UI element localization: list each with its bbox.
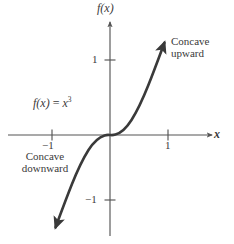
equation-operator: =: [50, 96, 63, 110]
y-tick-label-neg1: −1: [85, 193, 97, 205]
x-tick-label-pos1: 1: [165, 139, 171, 151]
concave-downward-line-2: downward: [9, 162, 81, 174]
concave-downward-annotation: Concave downward: [9, 150, 81, 175]
concave-downward-line-1: Concave: [9, 150, 81, 162]
x-axis-label: x: [214, 128, 220, 141]
equation-label: f(x)=x3: [33, 97, 72, 110]
cubic-concavity-figure: f(x) x −1 1 1 −1 f(x)=x3 Concave upward …: [0, 0, 234, 244]
equation-lhs: f(x): [33, 96, 50, 110]
y-axis-label: f(x): [97, 2, 114, 15]
y-tick-label-pos1: 1: [92, 53, 98, 65]
concave-upward-line-1: Concave: [171, 35, 209, 47]
concave-upward-annotation: Concave upward: [171, 35, 209, 60]
concave-upward-line-2: upward: [171, 47, 209, 59]
equation-rhs-exponent: 3: [68, 95, 72, 104]
